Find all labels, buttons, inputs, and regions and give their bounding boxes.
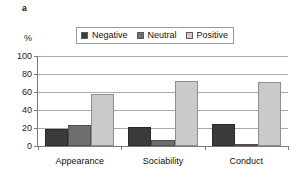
legend-label-positive: Positive bbox=[197, 31, 229, 40]
panel-letter: a bbox=[22, 4, 27, 13]
bar-appearance-negative bbox=[45, 129, 68, 146]
x-axis-tick bbox=[205, 146, 206, 150]
legend-swatch-neutral-icon bbox=[137, 32, 144, 39]
bar-series-group bbox=[38, 56, 288, 146]
bar-conduct-negative bbox=[212, 124, 235, 147]
x-axis-tick bbox=[38, 146, 39, 150]
y-axis-unit-label: % bbox=[24, 34, 32, 43]
figure-panel: a % Negative Neutral Positive 0204060801… bbox=[0, 0, 307, 189]
legend-swatch-negative-icon bbox=[81, 32, 88, 39]
bar-sociability-neutral bbox=[151, 140, 174, 146]
bar-sociability-positive bbox=[175, 81, 198, 146]
legend-label-negative: Negative bbox=[92, 31, 128, 40]
x-axis-label-appearance: Appearance bbox=[55, 157, 104, 166]
x-axis-label-conduct: Conduct bbox=[230, 157, 264, 166]
y-axis-tick-label: 40 bbox=[22, 106, 32, 115]
y-axis-tick-label: 0 bbox=[27, 142, 32, 151]
chart-legend: Negative Neutral Positive bbox=[76, 27, 234, 44]
x-axis-tick bbox=[121, 146, 122, 150]
plot-area: 020406080100 AppearanceSociabilityConduc… bbox=[38, 56, 288, 146]
bar-appearance-neutral bbox=[68, 125, 91, 146]
x-axis-line bbox=[37, 146, 288, 147]
bar-conduct-positive bbox=[258, 82, 281, 146]
legend-swatch-positive-icon bbox=[186, 32, 193, 39]
bar-conduct-neutral bbox=[235, 144, 258, 146]
bar-sociability-negative bbox=[128, 127, 151, 146]
legend-label-neutral: Neutral bbox=[148, 31, 177, 40]
legend-item-negative: Negative bbox=[81, 31, 128, 40]
x-axis-tick bbox=[288, 146, 289, 150]
y-axis-tick-label: 100 bbox=[17, 52, 32, 61]
y-axis-tick-label: 80 bbox=[22, 70, 32, 79]
bar-appearance-positive bbox=[91, 94, 114, 146]
legend-item-positive: Positive bbox=[186, 31, 229, 40]
y-axis-tick-label: 20 bbox=[22, 124, 32, 133]
x-axis-label-sociability: Sociability bbox=[143, 157, 184, 166]
legend-item-neutral: Neutral bbox=[137, 31, 177, 40]
y-axis-tick-label: 60 bbox=[22, 88, 32, 97]
